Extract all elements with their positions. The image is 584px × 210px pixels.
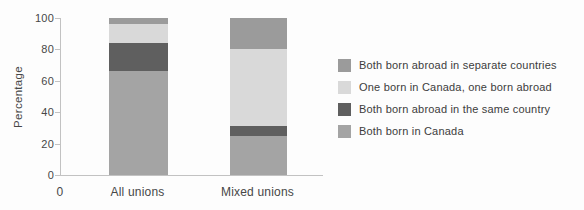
legend-label: Both born abroad in separate countries [359,59,557,71]
bar-segment [109,71,168,175]
legend-label: One born in Canada, one born abroad [359,81,552,93]
bar-segment [230,126,287,135]
y-tick-label: 80 [20,42,54,56]
y-tick-label: 0 [20,168,54,182]
legend-swatch [338,81,351,94]
legend-item: One born in Canada, one born abroad [338,76,557,98]
bar-all-unions [109,18,168,175]
bar-segment [230,136,287,175]
y-tick-label: 100 [20,11,54,25]
legend-item: Both born abroad in separate countries [338,54,557,76]
bar-segment [109,43,168,71]
bar-segment [230,49,287,126]
legend-label: Both born in Canada [359,125,464,137]
y-tick-label: 40 [20,105,54,119]
y-tick-label: 60 [20,74,54,88]
bar-segment [109,24,168,43]
bar-mixed-unions [230,18,287,175]
plot-area [60,18,323,176]
bar-segment [230,18,287,49]
y-tick-label: 20 [20,137,54,151]
chart-legend: Both born abroad in separate countriesOn… [338,54,557,142]
stacked-bar-chart: Percentage 100806040200 0All unionsMixed… [0,0,584,210]
legend-swatch [338,125,351,138]
legend-label: Both born abroad in the same country [359,103,550,115]
legend-swatch [338,103,351,116]
legend-item: Both born in Canada [338,120,557,142]
legend-swatch [338,59,351,72]
x-tick-label-mixed-unions: Mixed unions [198,185,318,199]
x-tick-label-all-unions: All unions [78,185,198,199]
legend-item: Both born abroad in the same country [338,98,557,120]
